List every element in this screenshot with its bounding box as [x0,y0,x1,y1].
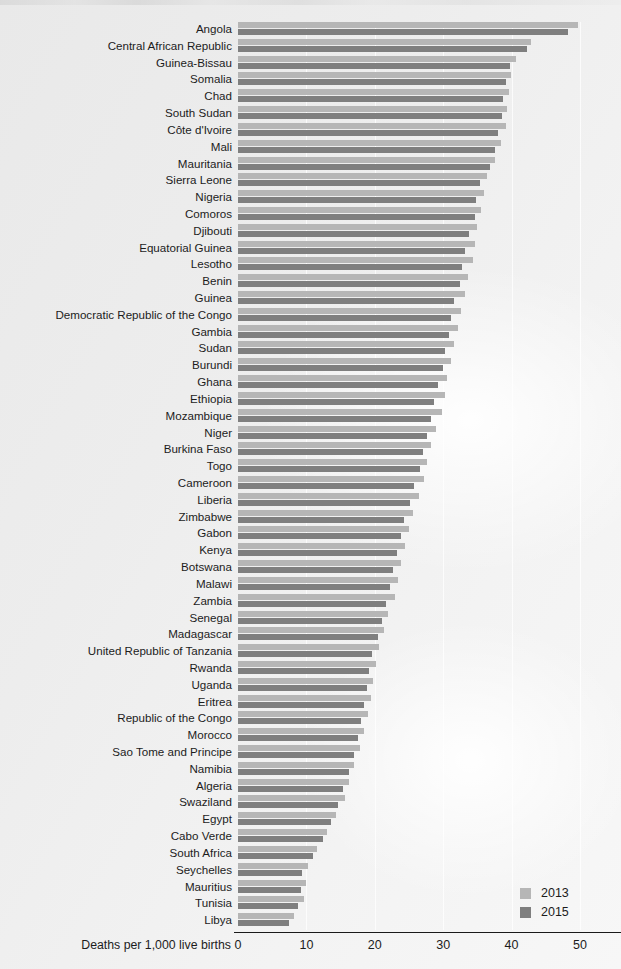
category-label: Gabon [197,527,232,539]
bar-2013 [238,173,487,179]
bar-row [238,358,621,375]
category-label: Eritrea [198,696,232,708]
category-label: Malawi [196,578,232,590]
bar-2015 [238,836,323,842]
x-tick-label: 0 [235,938,242,952]
legend-label-2013: 2013 [541,885,569,901]
bar-2013 [238,325,458,331]
bar-2013 [238,880,306,886]
bar-row [238,409,621,426]
bar-row [238,308,621,325]
bar-2013 [238,442,431,448]
bar-2013 [238,140,501,146]
bar-row [238,560,621,577]
bar-2013 [238,291,465,297]
bar-2015 [238,197,476,203]
bar-2013 [238,543,405,549]
bar-2013 [238,846,317,852]
bar-2013 [238,812,336,818]
bar-2013 [238,526,409,532]
bar-2015 [238,315,451,321]
bar-row [238,392,621,409]
bar-row [238,711,621,728]
category-label: Central African Republic [108,40,232,52]
bar-2013 [238,779,349,785]
x-tick-label: 10 [299,938,313,952]
bar-rows [238,22,621,930]
legend-label-2015: 2015 [541,904,569,920]
category-label: Algeria [196,780,232,792]
bar-2013 [238,678,373,684]
bar-2015 [238,231,469,237]
category-label: Liberia [197,494,232,506]
bar-2015 [238,870,302,876]
bar-2015 [238,618,382,624]
bar-2015 [238,382,438,388]
category-label: Madagascar [168,628,232,640]
bar-2013 [238,89,509,95]
bar-2013 [238,190,484,196]
bar-row [238,829,621,846]
bar-2015 [238,130,498,136]
category-label: Sudan [198,342,232,354]
bar-row [238,39,621,56]
bar-2013 [238,392,445,398]
bar-2013 [238,224,477,230]
category-label: Benin [202,275,232,287]
chart-container: AngolaCentral African RepublicGuinea-Bis… [0,0,621,969]
bar-2015 [238,668,369,674]
bar-2015 [238,180,480,186]
bar-2013 [238,22,578,28]
category-label: Zimbabwe [179,511,232,523]
bar-row [238,442,621,459]
category-label: Botswana [181,561,232,573]
bar-row [238,22,621,39]
category-label: Cabo Verde [171,830,232,842]
category-label: Seychelles [176,864,232,876]
category-label: Uganda [191,679,232,691]
bar-2015 [238,96,503,102]
category-label: Libya [204,914,232,926]
bar-row [238,224,621,241]
x-tick-label: 30 [436,938,450,952]
bar-2015 [238,769,349,775]
plot-area [238,22,621,930]
bar-2015 [238,685,367,691]
bar-row [238,476,621,493]
bar-2015 [238,79,506,85]
category-label: Mauritius [185,881,232,893]
bar-row [238,106,621,123]
bar-2013 [238,123,506,129]
bar-2013 [238,106,507,112]
category-label: Mozambique [166,410,232,422]
category-label: Sierra Leone [166,174,232,186]
x-tick-label: 50 [573,938,587,952]
bar-row [238,594,621,611]
bar-row [238,89,621,106]
category-label: Côte d'Ivoire [167,124,232,136]
bar-row [238,526,621,543]
bar-2015 [238,718,361,724]
bar-2015 [238,702,364,708]
bar-row [238,375,621,392]
bar-row [238,863,621,880]
bar-2015 [238,887,301,893]
category-label: South Sudan [165,107,232,119]
bar-2013 [238,594,395,600]
bar-row [238,173,621,190]
category-label: Cameroon [178,477,232,489]
bar-row [238,157,621,174]
bar-row [238,325,621,342]
bar-row [238,140,621,157]
category-label-column: AngolaCentral African RepublicGuinea-Bis… [0,22,232,930]
bar-2013 [238,39,531,45]
category-label: Republic of the Congo [117,712,232,724]
category-label: Mauritania [178,158,232,170]
bar-2015 [238,466,420,472]
bar-2013 [238,409,442,415]
bar-2013 [238,207,481,213]
bar-2015 [238,550,397,556]
bar-2015 [238,164,490,170]
bar-row [238,543,621,560]
bar-2015 [238,281,460,287]
